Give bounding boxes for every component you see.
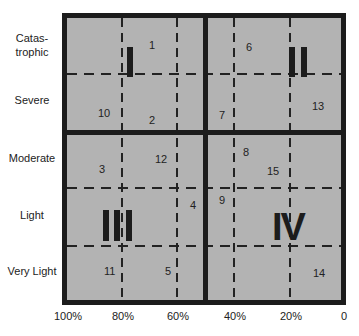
- dashed-line-80: [121, 18, 123, 300]
- point-3: 3: [99, 164, 105, 175]
- x-axis-label-20: 20%: [280, 310, 302, 322]
- quadrant-divider-vertical: [203, 18, 208, 300]
- point-14: 14: [313, 268, 325, 279]
- point-6: 6: [246, 42, 252, 53]
- x-axis-label-80: 80%: [112, 310, 134, 322]
- risk-matrix-grid: IV 1 2 10 6 7 13 3 12 4 11 5 8 15 9 14: [62, 13, 346, 305]
- point-5: 5: [165, 266, 171, 277]
- point-10: 10: [98, 108, 110, 119]
- row-label-moderate: Moderate: [2, 152, 62, 166]
- point-7: 7: [219, 110, 225, 121]
- point-13: 13: [312, 101, 324, 112]
- row-label-light: Light: [2, 209, 62, 223]
- dashed-line-60: [176, 18, 178, 300]
- point-2: 2: [149, 115, 155, 126]
- point-12: 12: [155, 154, 167, 165]
- quadrant-divider-horizontal: [67, 130, 341, 135]
- point-4: 4: [190, 200, 196, 211]
- row-label-very-light: Very Light: [2, 265, 62, 279]
- point-11: 11: [104, 266, 115, 277]
- row-label-catastrophic: Catas- trophic: [2, 32, 62, 60]
- point-8: 8: [243, 147, 249, 158]
- x-axis-label-40: 40%: [224, 310, 246, 322]
- x-axis-label-0: 0: [341, 310, 347, 322]
- x-axis-label-60: 60%: [167, 310, 189, 322]
- point-15: 15: [267, 166, 279, 177]
- quadrant-label-IV: IV: [272, 208, 304, 246]
- point-1: 1: [149, 40, 155, 51]
- row-label-severe: Severe: [2, 94, 62, 108]
- x-axis-label-100: 100%: [54, 310, 82, 322]
- point-9: 9: [219, 195, 225, 206]
- dashed-line-40: [233, 18, 235, 300]
